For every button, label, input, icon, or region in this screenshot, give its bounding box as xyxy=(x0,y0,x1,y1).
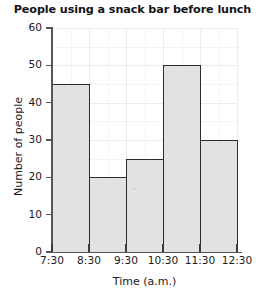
scan-speck-artifact xyxy=(133,188,135,190)
x-tick-mark xyxy=(125,244,126,252)
x-axis-label: Time (a.m.) xyxy=(52,275,237,288)
x-axis-line xyxy=(46,252,242,254)
x-tick-mark xyxy=(199,244,200,252)
y-tick-label: 20 xyxy=(0,170,42,182)
y-tick-mark xyxy=(46,27,52,28)
x-tick-mark xyxy=(162,244,163,252)
y-tick-mark xyxy=(46,214,52,215)
y-tick-label: 40 xyxy=(0,96,42,108)
x-tick-mark xyxy=(236,244,237,252)
x-tick-mark xyxy=(51,244,52,252)
y-tick-label: 10 xyxy=(0,208,42,220)
y-tick-label: 30 xyxy=(0,133,42,145)
y-tick-mark xyxy=(46,102,52,103)
x-tick-label: 12:30 xyxy=(215,254,259,266)
chart-title: People using a snack bar before lunch xyxy=(0,3,265,16)
y-tick-mark xyxy=(46,177,52,178)
bar xyxy=(163,65,201,253)
plot-area xyxy=(52,28,237,252)
y-tick-label: 50 xyxy=(0,58,42,70)
x-tick-mark xyxy=(88,244,89,252)
bar xyxy=(89,177,127,253)
y-tick-mark xyxy=(46,139,52,140)
y-tick-label: 60 xyxy=(0,21,42,33)
y-axis-label: Number of people xyxy=(12,67,25,227)
y-tick-mark xyxy=(46,65,52,66)
bar xyxy=(126,159,164,253)
bar xyxy=(200,140,238,253)
bar xyxy=(52,84,90,253)
histogram-chart: People using a snack bar before lunch Nu… xyxy=(0,0,265,297)
